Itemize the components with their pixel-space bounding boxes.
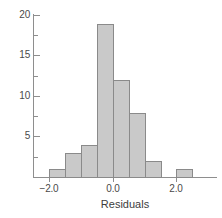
y-tick-label-10-wrap: 10 xyxy=(4,91,30,101)
bar-bin-4 xyxy=(97,24,114,178)
y-tick-10 xyxy=(34,96,40,97)
x-tick-2 xyxy=(176,178,177,182)
bar-bin-1 xyxy=(49,169,66,178)
y-tick-20 xyxy=(34,15,40,16)
y-tick-label-5-wrap: 5 xyxy=(4,131,30,141)
x-tick-label-neg2: −2.0 xyxy=(29,183,69,194)
x-tick-neg2 xyxy=(49,178,50,182)
y-tick-label-20-wrap: 20 xyxy=(4,10,30,20)
y-tick-5 xyxy=(34,136,40,137)
bar-bin-6 xyxy=(129,113,146,178)
bar-bin-3 xyxy=(81,145,98,178)
histogram-chart: 5 10 15 20 −2.0 0.0 2.0 Residuals xyxy=(0,0,222,218)
y-minor-tick-7_5 xyxy=(34,116,38,117)
x-axis-title: Residuals xyxy=(101,198,149,210)
y-tick-15 xyxy=(34,55,40,56)
x-tick-label-2: 2.0 xyxy=(156,183,196,194)
x-axis-title-wrap: Residuals xyxy=(0,198,222,210)
y-tick-label-15: 15 xyxy=(6,50,30,60)
y-minor-tick-17_5 xyxy=(34,35,38,36)
bar-bin-8 xyxy=(176,169,193,178)
x-tick-label-0: 0.0 xyxy=(93,183,133,194)
y-minor-tick-12_5 xyxy=(34,76,38,77)
plot-area: 5 10 15 20 −2.0 0.0 2.0 Residuals xyxy=(0,0,222,218)
y-minor-tick-2_5 xyxy=(34,157,38,158)
bar-bin-5 xyxy=(113,80,130,178)
y-tick-label-10: 10 xyxy=(6,91,30,101)
bar-bin-7 xyxy=(145,161,162,178)
y-tick-label-15-wrap: 15 xyxy=(4,50,30,60)
x-tick-0 xyxy=(113,178,114,182)
y-tick-label-20: 20 xyxy=(6,10,30,20)
bar-bin-2 xyxy=(65,153,82,178)
y-tick-label-5: 5 xyxy=(6,131,30,141)
